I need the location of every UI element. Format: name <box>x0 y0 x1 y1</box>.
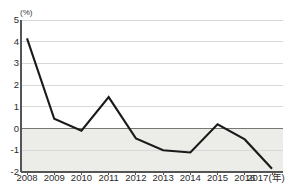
x-axis-tick-label: 2010 <box>71 173 92 183</box>
x-axis-tick-label: 2009 <box>44 173 65 183</box>
x-axis-tick-labels: 2008200920102011201220132014201520162017… <box>0 170 286 185</box>
x-axis-tick-label: 2012 <box>125 173 146 183</box>
x-axis-tick-label: 2008 <box>16 173 37 183</box>
x-axis-tick-label: 2014 <box>180 173 201 183</box>
x-axis-tick-label: 2017(年) <box>247 173 284 183</box>
x-axis-tick-label: 2013 <box>153 173 174 183</box>
line-chart: (%) 543210-1-2 2008200920102011201220132… <box>0 0 286 185</box>
x-axis-tick-label: 2015 <box>207 173 228 183</box>
chart-plot-area <box>0 0 286 185</box>
x-axis-tick-label: 2011 <box>98 173 118 183</box>
